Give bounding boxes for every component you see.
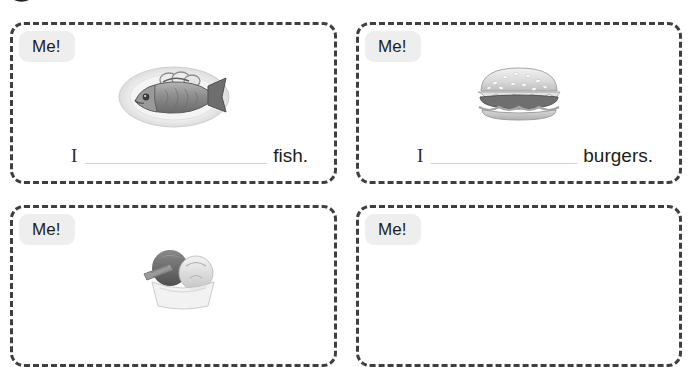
sentence-object: burgers. (583, 145, 653, 167)
sentence-subject: I (71, 145, 77, 167)
sentence-subject: I (417, 145, 423, 167)
me-badge: Me! (365, 31, 421, 62)
hamburger-photo (359, 51, 679, 137)
me-badge: Me! (19, 31, 75, 62)
mascot-speech-bubble-icon (6, 0, 52, 10)
worksheet-card-ice-cream[interactable]: Me! (10, 205, 337, 367)
worksheet-card-fish[interactable]: Me! (10, 22, 337, 184)
sentence-burgers: I burgers. (359, 145, 679, 167)
worksheet-card-empty[interactable]: Me! (356, 205, 682, 367)
answer-blank[interactable] (431, 163, 577, 164)
fish-on-plate-photo (13, 51, 334, 137)
worksheet-card-burgers[interactable]: Me! (356, 22, 682, 184)
ice-cream-sundae-photo (13, 234, 334, 320)
me-badge: Me! (19, 214, 75, 245)
me-badge: Me! (365, 214, 421, 245)
sentence-fish: I fish. (13, 145, 334, 167)
sentence-object: fish. (273, 145, 308, 167)
answer-blank[interactable] (85, 163, 267, 164)
